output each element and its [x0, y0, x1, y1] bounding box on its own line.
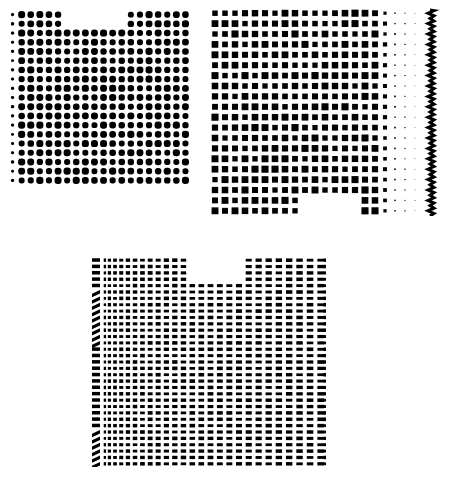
dot-grid-svg [210, 8, 442, 216]
dot-grid-panel-bottom [92, 257, 326, 467]
dot-grid-panel-top-right [210, 8, 442, 216]
dot-grid-panel-top-left [8, 10, 190, 185]
dot-grid-svg [92, 257, 326, 467]
dot-grid-svg [8, 10, 190, 185]
